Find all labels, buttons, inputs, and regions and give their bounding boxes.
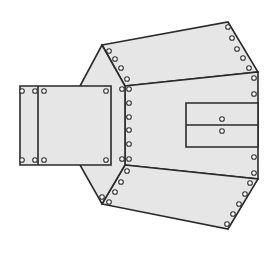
- grommet-icon: [113, 190, 118, 195]
- grommet-icon: [241, 56, 246, 61]
- grommet-icon: [119, 66, 124, 71]
- grommet-icon: [225, 222, 230, 227]
- grommet-icon: [20, 158, 25, 163]
- grommet-icon: [237, 202, 242, 207]
- grommet-icon: [104, 89, 109, 94]
- grommet-icon: [20, 89, 25, 94]
- pattern-diagram: [0, 0, 277, 269]
- grommet-icon: [125, 77, 130, 82]
- grommet-icon: [33, 158, 38, 163]
- grommet-icon: [127, 101, 132, 106]
- grommet-icon: [248, 181, 253, 186]
- grommet-icon: [220, 117, 225, 122]
- grommet-icon: [252, 92, 257, 97]
- grommet-icon: [104, 158, 109, 163]
- grommet-icon: [235, 47, 240, 52]
- grommet-icon: [230, 36, 235, 41]
- grommet-icon: [127, 115, 132, 120]
- grommet-icon: [100, 195, 105, 200]
- grommet-icon: [120, 87, 125, 92]
- grommet-icon: [247, 66, 252, 71]
- grommet-icon: [125, 169, 130, 174]
- grommet-icon: [42, 158, 47, 163]
- grommet-icon: [42, 89, 47, 94]
- grommet-icon: [252, 76, 257, 81]
- grommet-icon: [107, 49, 112, 54]
- grommet-icon: [252, 171, 257, 176]
- grommet-icon: [231, 212, 236, 217]
- grommet-icon: [107, 200, 112, 205]
- grommet-icon: [220, 129, 225, 134]
- grommet-icon: [127, 128, 132, 133]
- grommet-icon: [119, 180, 124, 185]
- grommet-icon: [252, 155, 257, 160]
- grommet-icon: [127, 87, 132, 92]
- grommet-icon: [120, 157, 125, 162]
- grommet-icon: [243, 192, 248, 197]
- grommet-icon: [33, 89, 38, 94]
- square-flap-panel: [20, 86, 111, 165]
- grommet-icon: [226, 25, 231, 30]
- grommet-icon: [127, 157, 132, 162]
- grommet-icon: [113, 57, 118, 62]
- grommet-icon: [127, 142, 132, 147]
